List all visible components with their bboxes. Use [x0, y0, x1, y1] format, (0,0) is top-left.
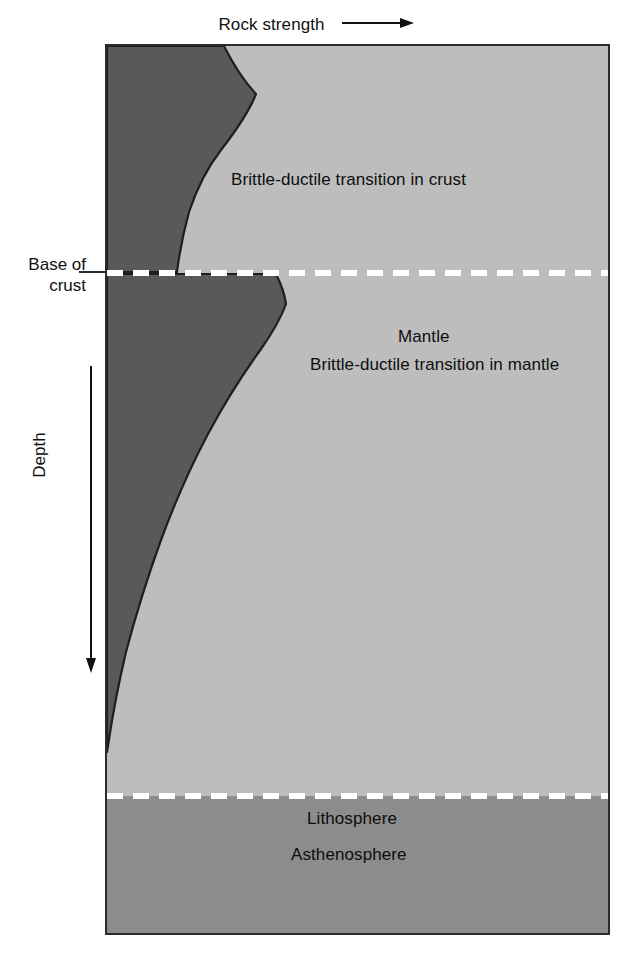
label-brittle-ductile-mantle: Brittle-ductile transition in mantle: [310, 355, 559, 375]
label-asthenosphere: Asthenosphere: [291, 845, 407, 865]
arrow-down-icon: [84, 366, 98, 677]
label-lithosphere: Lithosphere: [307, 809, 397, 829]
label-brittle-ductile-crust: Brittle-ductile transition in crust: [231, 170, 466, 190]
arrow-right-icon: [342, 15, 414, 35]
cross-section-plot-box: Brittle-ductile transition in crust Mant…: [105, 44, 610, 935]
axis-title-depth: Depth: [30, 432, 50, 477]
axis-title-rock-strength: Rock strength: [0, 14, 632, 35]
figure-root: Rock strength Depth Base of crust: [0, 0, 632, 954]
base-of-crust-line1: Base of: [0, 254, 86, 275]
base-of-crust-leader-line: [79, 271, 105, 273]
rock-strength-label: Rock strength: [218, 15, 324, 34]
base-of-crust-line2: crust: [0, 275, 86, 296]
depth-label: Depth: [30, 432, 49, 477]
base-of-crust-annotation: Base of crust: [0, 254, 86, 296]
label-mantle: Mantle: [398, 327, 450, 347]
